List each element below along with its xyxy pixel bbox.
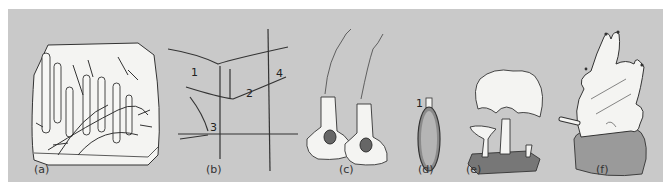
lobed-sponge-illustration <box>556 9 661 182</box>
panel-a: (a) <box>28 15 158 180</box>
polyp-colony-illustration <box>28 15 158 180</box>
caption-a: (a) <box>34 163 49 176</box>
spicule-label-3: 3 <box>210 121 217 134</box>
capsule-label-1: 1 <box>416 97 423 110</box>
caption-e: (e) <box>466 163 481 176</box>
figure-panel: (a) 1 2 3 4 (b) <box>8 9 663 182</box>
panel-e: (e) <box>458 9 558 182</box>
spicule-label-4: 4 <box>276 67 283 80</box>
caption-f: (f) <box>596 163 608 176</box>
flagellated-cells-illustration <box>303 9 403 182</box>
spicule-label-1: 1 <box>191 66 198 79</box>
cup-sponge-illustration <box>458 9 558 182</box>
panel-d: 1 (d) <box>406 9 456 182</box>
caption-c: (c) <box>339 163 354 176</box>
spicules-illustration <box>158 9 298 182</box>
spicule-label-2: 2 <box>246 87 253 100</box>
panel-f: (f) <box>556 9 661 182</box>
panel-c: (c) <box>303 9 403 182</box>
caption-b: (b) <box>206 163 222 176</box>
panel-b: 1 2 3 4 (b) <box>158 9 298 182</box>
caption-d: (d) <box>418 163 434 176</box>
capsule-illustration <box>406 9 456 182</box>
